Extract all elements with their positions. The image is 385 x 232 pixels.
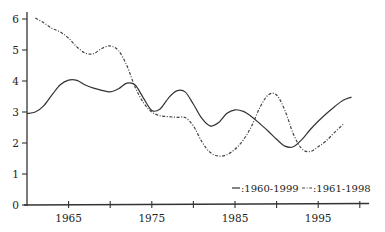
x-tick-label-1975: 1975 [138, 212, 165, 224]
y-tick-label-5: 5 [12, 44, 19, 56]
series-points-1 [35, 18, 343, 156]
y-tick-label-4: 4 [12, 75, 19, 87]
y-tick-label-1: 1 [12, 168, 19, 180]
x-axis [24, 204, 369, 206]
series-line-1960-1999 [27, 80, 351, 148]
line-chart: 1965197519851995 0123456 :1960-1999 :196… [0, 0, 385, 232]
series-points-0 [27, 80, 352, 147]
legend-label-1961-1998: :1961-1998 [313, 183, 371, 194]
series-layer [27, 18, 352, 156]
legend: :1960-1999 :1961-1998 [232, 183, 371, 194]
y-ticks: 0123456 [12, 13, 27, 211]
legend-label-1960-1999: :1960-1999 [241, 183, 299, 194]
series-line-1961-1998 [35, 18, 343, 156]
y-tick-label-6: 6 [12, 13, 19, 25]
y-tick-label-2: 2 [12, 137, 19, 149]
y-tick-label-3: 3 [12, 106, 19, 118]
x-tick-label-1995: 1995 [305, 212, 332, 224]
y-tick-label-0: 0 [12, 199, 19, 211]
x-tick-label-1985: 1985 [222, 212, 249, 224]
x-tick-label-1965: 1965 [55, 212, 82, 224]
